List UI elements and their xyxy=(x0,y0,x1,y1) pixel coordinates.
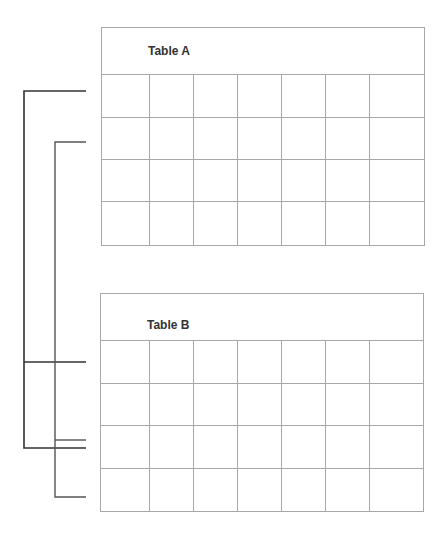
inner-connector xyxy=(55,142,86,497)
relationship-connectors xyxy=(0,0,446,539)
